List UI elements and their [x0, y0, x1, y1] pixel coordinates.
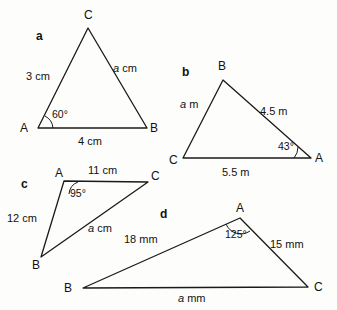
figure-c-angle-label-A: 95° [70, 187, 86, 199]
figure-a-side-label-AC: 3 cm [26, 70, 50, 82]
figure-d-angle-label-A: 125° [225, 228, 247, 240]
figure-c-side-unit: cm [94, 222, 112, 234]
figure-a-side-label-AB: 4 cm [78, 135, 102, 147]
figure-c-triangle-outline [41, 181, 148, 257]
figure-c-side-label-BC: a cm [88, 222, 112, 234]
figure-b-side-label-CB: a m [180, 98, 198, 110]
figure-a-vertex-label-B: B [150, 121, 158, 135]
figure-b-angle-arc-A [294, 147, 298, 158]
figure-d-letter: d [160, 207, 167, 221]
figure-b-side-label-BA: 4.5 m [260, 105, 288, 117]
figure-a-angle-label-A: 60° [52, 108, 68, 120]
figure-b-side-label-CA: 5.5 m [222, 166, 250, 178]
figure-c-vertex-label-B: B [32, 258, 40, 272]
figure-c: c A C B 11 cm 12 cm a cm 95° [7, 164, 160, 272]
figure-b-vertex-label-C: C [169, 153, 178, 167]
figure-c-vertex-label-A: A [55, 166, 63, 180]
figure-b-angle-label-A: 43° [278, 140, 294, 152]
figure-a: a C A B 3 cm a cm 4 cm 60° [20, 8, 158, 147]
figure-b-vertex-label-B: B [218, 59, 226, 73]
figure-a-side-label-CB: a cm [113, 62, 137, 74]
figure-b-letter: b [182, 65, 189, 79]
figure-c-vertex-label-C: C [151, 169, 160, 183]
figure-d-side-label-AC: 15 mm [270, 238, 304, 250]
figure-a-vertex-label-C: C [84, 8, 93, 22]
figure-a-letter: a [36, 29, 43, 43]
figure-d-vertex-label-C: C [314, 280, 323, 294]
figure-a-side-unit: cm [119, 62, 137, 74]
figure-d: d A B C 18 mm 15 mm a mm 125° [64, 201, 323, 304]
figure-c-letter: c [21, 177, 28, 191]
figure-c-side-label-AC: 11 cm [88, 164, 117, 176]
figure-b-side-unit: m [186, 98, 198, 110]
figure-b-vertex-label-A: A [315, 151, 323, 165]
figure-d-vertex-label-B: B [64, 281, 72, 295]
figure-d-triangle-outline [83, 218, 308, 288]
figure-d-side-label-AB: 18 mm [124, 233, 158, 245]
figure-d-side-label-BC: a mm [178, 292, 206, 304]
figure-d-vertex-label-A: A [236, 201, 244, 215]
figure-d-side-unit: mm [184, 292, 205, 304]
triangle-diagram-canvas: a C A B 3 cm a cm 4 cm 60° b B C A a m 4… [0, 0, 337, 310]
figure-b: b B C A a m 4.5 m 5.5 m 43° [169, 59, 323, 178]
figure-a-vertex-label-A: A [20, 121, 28, 135]
figure-c-side-label-AB: 12 cm [7, 212, 37, 224]
